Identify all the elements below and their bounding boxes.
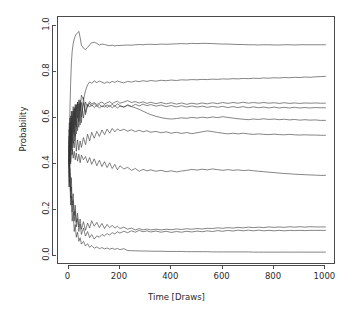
x-tick-label: 400 xyxy=(150,271,190,281)
x-tick-mark xyxy=(324,265,325,269)
trace-lines-svg xyxy=(58,17,336,265)
y-tick-label: 1.0 xyxy=(41,12,51,36)
x-tick-label: 200 xyxy=(99,271,139,281)
chart-figure: Probability 0.00.20.40.60.81.0 020040060… xyxy=(0,0,353,319)
x-tick-label: 800 xyxy=(253,271,293,281)
x-tick-label: 0 xyxy=(48,271,88,281)
y-tick-label: 0.6 xyxy=(41,104,51,128)
y-tick-label: 0.8 xyxy=(41,58,51,82)
trace-line xyxy=(69,127,326,168)
x-tick-label: 600 xyxy=(202,271,242,281)
trace-line xyxy=(69,141,326,175)
y-axis-title: Probability xyxy=(18,89,28,169)
y-tick-label: 0.4 xyxy=(41,150,51,174)
trace-line xyxy=(69,150,326,230)
y-tick-mark xyxy=(52,255,56,256)
x-axis-line xyxy=(68,265,325,266)
trace-line xyxy=(69,102,326,160)
plot-area xyxy=(57,16,335,264)
x-tick-label: 1000 xyxy=(304,271,344,281)
y-tick-label: 0.0 xyxy=(41,242,51,266)
y-axis-line xyxy=(52,25,53,254)
x-axis-title: Time [Draws] xyxy=(0,292,353,302)
y-tick-label: 0.2 xyxy=(41,196,51,220)
trace-line xyxy=(69,159,326,252)
trace-line xyxy=(69,31,326,186)
trace-line xyxy=(69,76,326,164)
